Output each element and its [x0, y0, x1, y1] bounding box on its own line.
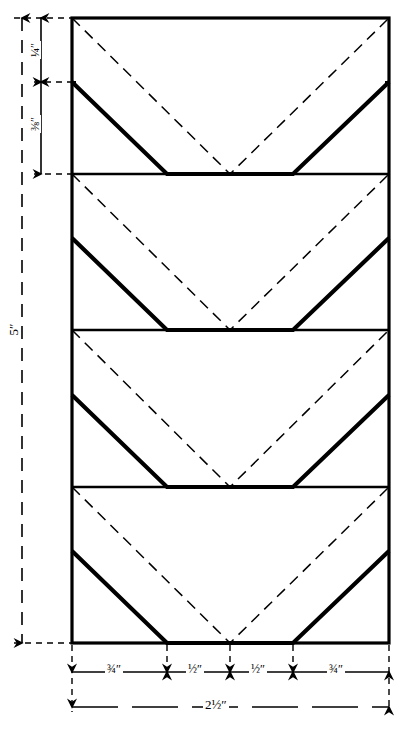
label-band-1: ¼″: [29, 41, 41, 59]
label-seg-2: ½″: [186, 663, 204, 675]
label-seg-3: ½″: [249, 663, 267, 675]
label-seg-1: ¾″: [105, 663, 123, 675]
label-seg-4: ¾″: [327, 663, 345, 675]
label-band-2: ⅜″: [29, 115, 41, 133]
label-height-overall: 5″: [7, 322, 20, 338]
witness-lines-bottom: [72, 645, 389, 712]
label-width-overall: 2½″: [203, 698, 229, 711]
diagram-canvas: 5″ ¼″ ⅜″ ¾″ ½″ ½″ ¾″ 2½″: [0, 0, 405, 730]
chevron-layout-svg: [0, 0, 405, 730]
witness-lines-left: [14, 18, 74, 643]
